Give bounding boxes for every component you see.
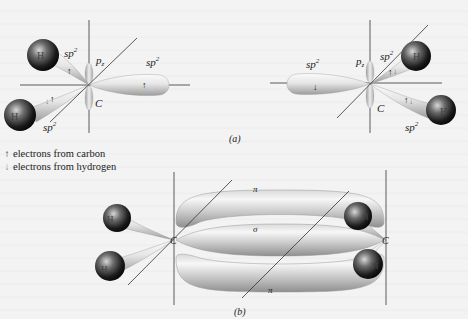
panel-a-left-carbon: H H ↑ ↑ ↓ ↑ sp2 sp2 sp2 pz C (4, 20, 190, 133)
pi-bond-label: π (253, 184, 258, 194)
carbon-label: C (382, 235, 389, 246)
pz-orbital-lower-lobe (85, 86, 93, 110)
panel-a-right-carbon: H H ↑ ↓ ↓ ↑ ↓ sp2 sp2 sp2 pz C (270, 20, 456, 133)
hydrogen-atom (95, 251, 125, 281)
legend-label: electrons from hydrogen (13, 161, 116, 172)
electron-up-arrow-icon: ↑ (404, 95, 409, 105)
sp2-orbital-right-lobe (89, 74, 169, 95)
down-arrow-icon: ↓ (3, 161, 11, 173)
legend-item-carbon-electrons: ↑electrons from carbon (3, 148, 105, 160)
electron-up-arrow-icon: ↑ (67, 66, 72, 76)
electron-down-arrow-icon: ↓ (313, 82, 318, 92)
electron-down-arrow-icon: ↓ (409, 97, 413, 106)
legend-item-hydrogen-electrons: ↓electrons from hydrogen (3, 161, 116, 173)
sp2-label: sp2 (405, 120, 419, 133)
hydrogen-label: H (372, 261, 379, 271)
panel-a-caption: (a) (229, 133, 241, 145)
sp2-label: sp2 (43, 120, 57, 133)
sp2-label: sp2 (380, 49, 394, 62)
pz-orbital-upper-lobe (366, 61, 374, 83)
carbon-label: C (95, 97, 103, 109)
hydrogen-atom (353, 249, 383, 279)
sp2-label: sp2 (306, 57, 320, 70)
electron-up-arrow-icon: ↑ (142, 80, 147, 90)
carbon-label: C (377, 102, 385, 114)
hydrogen-label: H (440, 106, 447, 117)
hydrogen-label: H (413, 51, 420, 62)
hydrogen-label: H (107, 214, 114, 224)
sp2-orbital-lower-left-lobe (30, 85, 89, 122)
electron-up-arrow-icon: ↑ (388, 67, 393, 77)
pz-label: pz (355, 55, 365, 69)
sp2-label: sp2 (64, 46, 78, 59)
hydrogen-label: H (11, 111, 18, 122)
up-arrow-icon: ↑ (3, 148, 11, 160)
sp2-orbital-left-lobe (287, 73, 370, 94)
hydrogen-label: H (362, 212, 369, 222)
panel-b-caption: (b) (234, 306, 246, 318)
hydrogen-label: H (101, 264, 108, 274)
hydrogen-atom (4, 99, 36, 131)
legend-label: electrons from carbon (13, 148, 105, 159)
pi-bond-label: π (268, 285, 273, 295)
hydrogen-label: H (37, 50, 44, 61)
electron-down-arrow-icon: ↓ (393, 67, 397, 76)
electron-down-arrow-icon: ↓ (45, 97, 49, 106)
pz-label: pz (95, 54, 105, 68)
panel-b-ethylene-bonding: H H H H C C π σ π (95, 170, 403, 305)
sp2-label: sp2 (146, 55, 160, 68)
electron-up-arrow-icon: ↑ (50, 94, 55, 104)
carbon-label: C (170, 235, 177, 246)
sigma-bond-label: σ (253, 224, 258, 234)
